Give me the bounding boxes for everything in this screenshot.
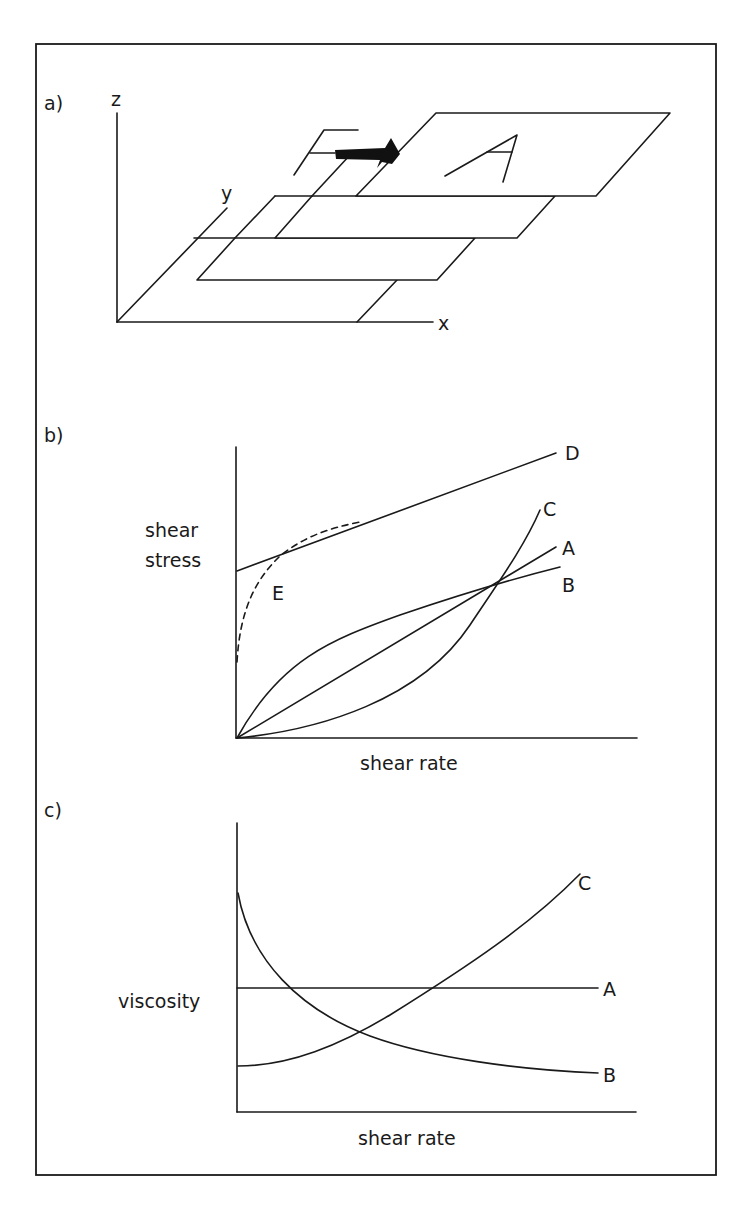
b-ylabel-line1: shear (145, 519, 198, 541)
layer-2-edge (235, 196, 275, 238)
c-ylabel: viscosity (118, 990, 200, 1012)
b-label-c: C (543, 498, 556, 520)
b-curve-c (237, 510, 540, 738)
panel-a: a) z y x (44, 88, 670, 334)
panel-c-label: c) (44, 799, 62, 821)
b-curve-e (237, 522, 360, 662)
layer-2-plate (275, 196, 555, 238)
c-label-b: B (603, 1064, 616, 1086)
b-curve-b (237, 567, 560, 738)
c-curve-c (238, 874, 580, 1066)
layer-1-edge (357, 280, 397, 322)
c-label-a: A (603, 978, 616, 1000)
c-curve-b (238, 893, 598, 1073)
panel-a-label: a) (44, 92, 63, 114)
y-axis-label: y (221, 182, 232, 204)
panel-c: c) viscosity shear rate A B C (44, 799, 636, 1149)
c-label-c: C (578, 872, 591, 894)
layer-1-plate (197, 238, 475, 280)
panel-b-label: b) (44, 424, 63, 446)
top-plate (356, 113, 670, 196)
c-xlabel: shear rate (358, 1127, 456, 1149)
force-arrow-icon (335, 138, 400, 168)
b-label-e: E (272, 582, 284, 604)
layer-3-edge (312, 155, 350, 196)
z-axis-label: z (111, 88, 121, 110)
b-label-d: D (565, 442, 580, 464)
b-label-a: A (562, 537, 575, 559)
b-label-b: B (562, 574, 575, 596)
x-axis-label: x (438, 312, 449, 334)
rheology-figure: a) z y x b) shear stress shear rate (0, 0, 749, 1213)
panel-b: b) shear stress shear rate D E A B C (44, 424, 637, 774)
b-curve-a (237, 547, 556, 738)
b-ylabel-line2: stress (145, 549, 201, 571)
b-xlabel: shear rate (360, 752, 458, 774)
b-curve-d (237, 453, 556, 571)
